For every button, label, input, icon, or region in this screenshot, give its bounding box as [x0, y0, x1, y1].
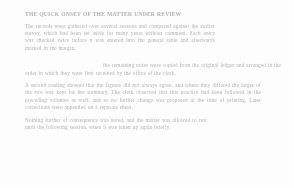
paragraph-block-c: A second reading showed that the figures…	[25, 82, 261, 112]
document-page: THE QUICK ONSET OF THE MATTER UNDER REVI…	[0, 0, 294, 188]
document-heading: THE QUICK ONSET OF THE MATTER UNDER REVI…	[25, 11, 243, 19]
paragraph-block-d: Nothing further of consequence was noted…	[25, 117, 207, 132]
paragraph-block-b: the remaining notes were copied from the…	[25, 62, 281, 77]
paragraph-block-a: The records were gathered over several s…	[25, 23, 215, 53]
document-body: THE QUICK ONSET OF THE MATTER UNDER REVI…	[25, 11, 281, 173]
